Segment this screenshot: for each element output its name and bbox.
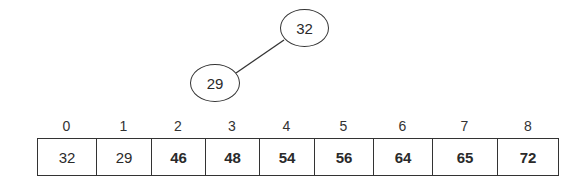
array-index: 1: [96, 118, 151, 134]
array-index: 4: [259, 118, 314, 134]
array-cell: 29: [97, 139, 152, 175]
array-cell: 54: [260, 139, 315, 175]
array-index: 8: [497, 118, 559, 134]
array-index: 2: [151, 118, 205, 134]
array-row: 32 29 46 48 54 56 64 65 72: [37, 138, 559, 176]
array-cell: 64: [374, 139, 433, 175]
tree-node-root-value: 32: [296, 20, 313, 37]
array-index: 6: [373, 118, 432, 134]
array-cell: 56: [315, 139, 374, 175]
array-index: 5: [314, 118, 373, 134]
array-cell: 48: [206, 139, 260, 175]
array-index: 7: [432, 118, 497, 134]
tree-edge-root-left: [236, 40, 284, 73]
array-index: 3: [205, 118, 259, 134]
tree-node-left-child-value: 29: [207, 75, 224, 92]
tree-node-left-child: 29: [190, 64, 240, 102]
array-cell: 72: [498, 139, 558, 175]
tree-node-root: 32: [280, 9, 329, 47]
array-cell: 32: [38, 139, 97, 175]
array-cell: 65: [433, 139, 498, 175]
array-index: 0: [37, 118, 96, 134]
array-cell: 46: [152, 139, 206, 175]
